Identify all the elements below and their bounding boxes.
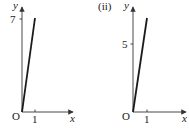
x-axis-label: x bbox=[69, 112, 75, 124]
origin-label: O bbox=[12, 110, 20, 122]
figure: y 7 O 1 x (ii) y 5 O 1 x bbox=[0, 0, 189, 131]
x-axis-label: x bbox=[181, 112, 187, 124]
graph-panel-right: (ii) y 5 O 1 x bbox=[98, 0, 187, 125]
x-tick-label: 1 bbox=[144, 113, 150, 125]
x-tick-label: 1 bbox=[32, 113, 38, 125]
graph-panel-left: y 7 O 1 x bbox=[10, 0, 75, 125]
y-axis-label: y bbox=[123, 0, 129, 11]
y-axis-label: y bbox=[12, 0, 18, 11]
graph-line bbox=[133, 18, 147, 112]
graph-line bbox=[22, 18, 35, 112]
y-tick-label: 7 bbox=[10, 13, 16, 25]
origin-label: O bbox=[122, 110, 130, 122]
panel-label: (ii) bbox=[98, 0, 112, 13]
y-tick-label: 5 bbox=[122, 38, 128, 50]
